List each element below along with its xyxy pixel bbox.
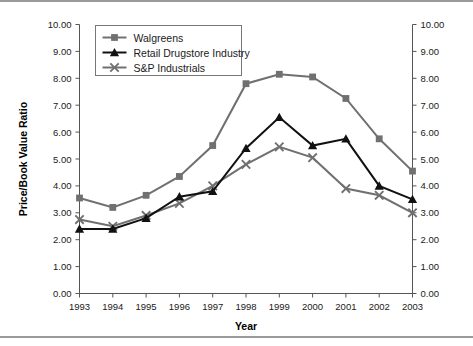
series-walgreens: [76, 71, 416, 211]
x-tick-label: 2003: [402, 301, 423, 312]
y-axis-title: Price/Book Value Ratio: [17, 102, 29, 216]
marker-square-3: [176, 173, 183, 180]
legend-label: Retail Drugstore Industry: [134, 47, 251, 59]
x-tick-label: 2001: [335, 301, 356, 312]
marker-square-1: [109, 204, 116, 211]
series-retail-drugstore-industry: [75, 113, 417, 233]
marker-square-8: [343, 95, 350, 102]
marker-square-9: [376, 135, 383, 142]
left-y-tick-label: 7.00: [53, 100, 72, 111]
marker-square-6: [276, 71, 283, 78]
x-tick-label: 1998: [235, 301, 256, 312]
series-layer: [75, 71, 417, 233]
right-y-tick-label: 0.00: [421, 288, 440, 299]
x-tick-label: 1999: [269, 301, 290, 312]
legend-entry-s-p-industrials[interactable]: S&P Industrials: [103, 62, 206, 74]
marker-square-10: [409, 168, 416, 175]
left-y-tick-label: 3.00: [53, 207, 72, 218]
left-y-tick-label: 10.00: [48, 19, 72, 30]
left-y-axis: 0.001.002.003.004.005.006.007.008.009.00…: [48, 19, 80, 299]
legend-label: S&P Industrials: [134, 62, 206, 74]
left-y-tick-label: 0.00: [53, 288, 72, 299]
marker-square-legend-0: [111, 34, 118, 41]
x-tick-label: 1996: [169, 301, 190, 312]
x-tick-label: 2000: [302, 301, 323, 312]
right-y-axis: 0.001.002.003.004.005.006.007.008.009.00…: [413, 19, 445, 299]
price-book-value-ratio-line-chart: 0.001.002.003.004.005.006.007.008.009.00…: [0, 0, 473, 346]
left-y-tick-label: 4.00: [53, 180, 72, 191]
chart-legend: WalgreensRetail Drugstore IndustryS&P In…: [96, 26, 251, 76]
right-y-tick-label: 3.00: [421, 207, 440, 218]
x-tick-label: 1997: [202, 301, 223, 312]
x-axis: 1993199419951996199719981999200020012002…: [69, 294, 423, 312]
right-y-tick-label: 9.00: [421, 46, 440, 57]
right-y-tick-label: 8.00: [421, 73, 440, 84]
x-tick-label: 1995: [136, 301, 157, 312]
x-tick-label: 2002: [369, 301, 390, 312]
x-tick-label: 1994: [102, 301, 123, 312]
x-axis-title: Year: [235, 320, 257, 332]
right-y-tick-label: 1.00: [421, 261, 440, 272]
left-y-tick-label: 1.00: [53, 261, 72, 272]
x-tick-label: 1993: [69, 301, 90, 312]
series-s-p-industrials: [75, 143, 416, 231]
right-y-tick-label: 4.00: [421, 180, 440, 191]
left-y-tick-label: 2.00: [53, 234, 72, 245]
legend-label: Walgreens: [134, 32, 184, 44]
right-y-tick-label: 10.00: [421, 19, 445, 30]
right-y-tick-label: 6.00: [421, 127, 440, 138]
chart-figure: 0.001.002.003.004.005.006.007.008.009.00…: [0, 0, 473, 346]
left-y-tick-label: 6.00: [53, 127, 72, 138]
marker-square-2: [143, 192, 150, 199]
marker-triangle-6: [275, 113, 284, 121]
left-y-tick-label: 5.00: [53, 154, 72, 165]
marker-square-5: [243, 80, 250, 87]
right-y-tick-label: 5.00: [421, 154, 440, 165]
marker-square-0: [76, 195, 83, 202]
series-line: [80, 117, 413, 229]
series-line: [80, 147, 413, 226]
marker-square-4: [209, 142, 216, 149]
left-y-tick-label: 8.00: [53, 73, 72, 84]
marker-square-7: [309, 74, 316, 81]
series-line: [80, 74, 413, 207]
right-y-tick-label: 2.00: [421, 234, 440, 245]
left-y-tick-label: 9.00: [53, 46, 72, 57]
right-y-tick-label: 7.00: [421, 100, 440, 111]
marker-triangle-8: [341, 134, 350, 142]
